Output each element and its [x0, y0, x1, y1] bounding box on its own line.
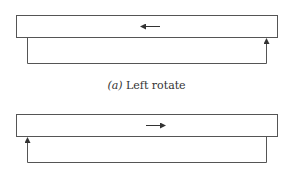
caption-left-rotate: (a) Left rotate: [0, 79, 293, 92]
caption-label: (a): [107, 79, 122, 92]
caption-text: Left rotate: [126, 79, 186, 92]
left-rotate-diagram: [17, 16, 278, 64]
right-rotate-diagram: [17, 115, 278, 163]
rotate-return-path: [28, 38, 267, 64]
rotate-return-path: [28, 137, 267, 163]
